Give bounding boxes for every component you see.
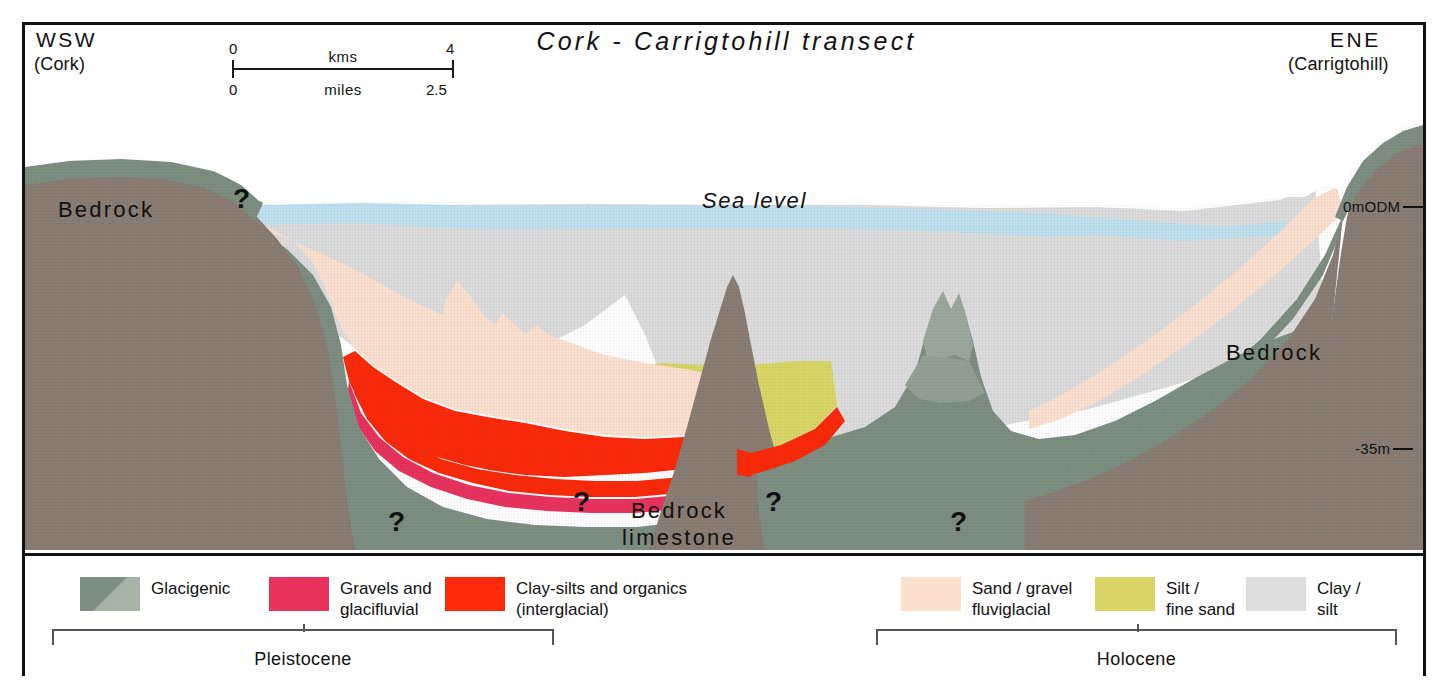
swatch-gravels-glacifluvial: [269, 577, 329, 611]
orientation-left-place: (Cork): [34, 54, 85, 75]
legend-label-clay-silts-organics: Clay-silts and organics (interglacial): [516, 577, 687, 621]
legend-label-glacigenic: Glacigenic: [151, 577, 230, 599]
depth-tick-0modm-mark: [1403, 206, 1423, 208]
legend-label-silt-fine-sand: Silt / fine sand: [1166, 577, 1235, 621]
swatch-clay-silt: [1246, 577, 1306, 611]
cross-section-figure: Bedrock Bedrock Bedrock limestone Sea le…: [0, 0, 1453, 698]
scale-bar: 0 4 kms miles 0 2.5: [232, 40, 454, 98]
legend-item-silt-fine-sand: Silt / fine sand: [1095, 577, 1235, 621]
bedrock-right-label: Bedrock: [1226, 340, 1322, 366]
bracket-holocene-nub: [1137, 624, 1139, 632]
swatch-sand-gravel-fluviglacial: [901, 577, 961, 611]
legend-item-glacigenic: Glacigenic: [80, 577, 230, 611]
legend-item-sand-gravel-fluviglacial: Sand / gravel fluviglacial: [901, 577, 1072, 621]
scale-miles-min: 0: [229, 81, 237, 98]
era-label-holocene: Holocene: [876, 649, 1397, 670]
legend-item-gravels-glacifluvial: Gravels and glacifluvial: [269, 577, 432, 621]
legend: Glacigenic Gravels and glacifluvial Clay…: [25, 553, 1423, 676]
swatch-glacigenic: [80, 577, 140, 611]
legend-label-gravels-glacifluvial: Gravels and glacifluvial: [340, 577, 432, 621]
depth-tick-minus35m-mark: [1393, 448, 1413, 450]
cross-section-panel: Bedrock Bedrock Bedrock limestone Sea le…: [25, 25, 1423, 550]
depth-tick-minus35m: -35m: [1355, 440, 1413, 457]
orientation-right-place: (Carrigtohill): [1288, 54, 1389, 75]
scale-miles-unit: miles: [232, 81, 454, 98]
era-label-pleistocene: Pleistocene: [52, 649, 554, 670]
query-marker-1: ?: [233, 183, 250, 215]
depth-tick-0modm-label: 0mODM: [1343, 198, 1400, 215]
depth-tick-minus35m-label: -35m: [1355, 440, 1390, 457]
sea-level-label: Sea level: [702, 188, 807, 214]
bedrock-left-label: Bedrock: [58, 197, 154, 223]
query-marker-5: ?: [950, 506, 967, 538]
depth-tick-0modm: 0mODM: [1343, 198, 1423, 215]
figure-title: Cork - Carrigtohill transect: [0, 27, 1453, 56]
scale-km-unit: kms: [232, 48, 454, 65]
scale-miles-max: 2.5: [426, 81, 447, 98]
query-marker-3: ?: [573, 486, 590, 518]
query-marker-4: ?: [765, 486, 782, 518]
swatch-silt-fine-sand: [1095, 577, 1155, 611]
bracket-holocene: [876, 629, 1397, 645]
legend-divider: [25, 553, 1423, 556]
bracket-pleistocene: [52, 629, 554, 645]
bracket-pleistocene-nub: [303, 624, 305, 632]
legend-label-clay-silt: Clay / silt: [1317, 577, 1360, 621]
cross-section-svg: [25, 25, 1423, 550]
legend-label-sand-gravel-fluviglacial: Sand / gravel fluviglacial: [972, 577, 1072, 621]
legend-item-clay-silt: Clay / silt: [1246, 577, 1360, 621]
query-marker-2: ?: [388, 506, 405, 538]
bedrock-limestone-label: Bedrock limestone: [622, 498, 736, 550]
legend-item-clay-silts-organics: Clay-silts and organics (interglacial): [445, 577, 687, 621]
scale-bar-line: [232, 68, 454, 70]
swatch-clay-silts-organics: [445, 577, 505, 611]
